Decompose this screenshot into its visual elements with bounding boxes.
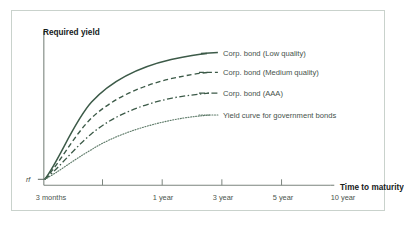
y-axis-title: Required yield (43, 28, 100, 37)
x-tick-label-10-year: 10 year (311, 193, 375, 202)
legend-label-low-quality: Corp. bond (Low quality) (223, 49, 306, 58)
x-axis-title: Time to maturity (340, 183, 404, 192)
x-axis-ticks (103, 179, 282, 185)
legend-label-government-bonds: Yield curve for government bonds (223, 111, 336, 120)
x-tick-label-3-year: 3 year (191, 193, 255, 202)
x-tick-label-1-year: 1 year (131, 193, 195, 202)
legend-label-aaa: Corp. bond (AAA) (223, 89, 283, 98)
x-tick-label-3-months: 3 months (19, 193, 83, 202)
rf-origin-label: rf (26, 176, 30, 183)
series-line-government-bonds (45, 115, 210, 179)
x-tick-label-5-year: 5 year (251, 193, 315, 202)
legend-label-medium-quality: Corp. bond (Medium quality) (223, 68, 319, 77)
series-line-low-quality (45, 54, 207, 180)
legend-sample-low-quality (201, 53, 218, 54)
chart-figure: Required yield Time to maturity rf 3 mon… (11, 10, 385, 211)
